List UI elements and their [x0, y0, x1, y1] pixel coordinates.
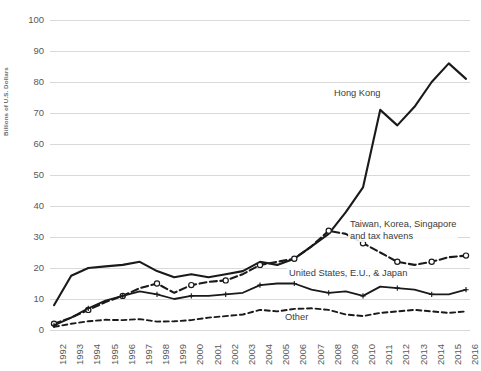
x-axis-tick-label: 2000 — [195, 344, 205, 365]
x-axis-tick-label: 2009 — [350, 344, 360, 365]
series-marker — [429, 292, 434, 297]
x-axis-tick-label: 1993 — [75, 344, 85, 365]
x-axis-tick-label: 1994 — [92, 344, 102, 365]
series-marker — [189, 293, 194, 298]
other-series-label: Other — [283, 312, 310, 324]
series-marker — [154, 281, 159, 286]
taiwan-series-label-line1: Taiwan, Korea, Singapore — [350, 219, 456, 229]
series-marker — [395, 286, 400, 291]
series-marker — [189, 283, 194, 288]
x-axis-tick-label: 2008 — [333, 344, 343, 365]
x-axis-tick-label: 2007 — [316, 344, 326, 365]
series-marker — [395, 259, 400, 264]
x-axis-tick-label: 2014 — [436, 344, 446, 365]
x-axis-tick-label: 2010 — [367, 344, 377, 365]
hong-kong-series-label: Hong Kong — [332, 88, 383, 100]
y-axis-tick-label: 50 — [16, 170, 44, 180]
series-marker — [326, 228, 331, 233]
y-axis-tick-label: 20 — [16, 263, 44, 273]
series-marker — [463, 287, 468, 292]
series-marker — [292, 281, 297, 286]
taiwan-series-label-line2: and tax havens — [350, 231, 413, 241]
y-axis-tick-label: 70 — [16, 108, 44, 118]
y-axis-tick-label: 0 — [16, 325, 44, 335]
x-axis-tick-label: 2015 — [453, 344, 463, 365]
y-axis-tick-label: 30 — [16, 232, 44, 242]
series-marker — [429, 259, 434, 264]
y-axis-title: Billions of U.S. Dollars — [2, 0, 9, 136]
x-axis-tick-label: 2006 — [298, 344, 308, 365]
x-axis-tick-label: 2005 — [281, 344, 291, 365]
x-axis-tick-label: 1995 — [110, 344, 120, 365]
x-axis-tick-label: 2003 — [247, 344, 257, 365]
x-axis-tick-label: 1996 — [127, 344, 137, 365]
x-axis-tick-label: 1999 — [178, 344, 188, 365]
y-axis-tick-labels: 1009080706050403020100 — [16, 0, 44, 371]
series-marker — [223, 292, 228, 297]
y-axis-tick-label: 90 — [16, 46, 44, 56]
gridline — [50, 330, 470, 331]
series-marker — [463, 253, 468, 258]
series-marker — [257, 262, 262, 267]
series-marker — [257, 282, 262, 287]
y-axis-tick-label: 40 — [16, 201, 44, 211]
x-axis-tick-label: 2011 — [384, 345, 394, 365]
series-marker — [326, 290, 331, 295]
x-axis-tick-label: 2012 — [401, 344, 411, 365]
line-chart: Billions of U.S. Dollars 100908070605040… — [0, 0, 481, 371]
x-axis-tick-label: 2016 — [470, 344, 480, 365]
series-marker — [223, 278, 228, 283]
x-axis-tick-label: 1998 — [161, 344, 171, 365]
x-axis-tick-label: 1992 — [58, 344, 68, 365]
x-axis-tick-label: 2002 — [230, 344, 240, 365]
y-axis-tick-label: 10 — [16, 294, 44, 304]
y-axis-tick-label: 80 — [16, 77, 44, 87]
x-axis-tick-label: 2001 — [213, 344, 223, 365]
y-axis-tick-label: 60 — [16, 139, 44, 149]
plot-area — [50, 20, 470, 330]
x-axis-tick-labels: 1992199319941995199619971998199920002001… — [50, 332, 470, 371]
us-eu-japan-series-label: United States, E.U., & Japan — [287, 268, 409, 280]
y-axis-tick-label: 100 — [16, 15, 44, 25]
taiwan-series-label: Taiwan, Korea, Singaporeand tax havens — [348, 219, 458, 242]
x-axis-tick-label: 2004 — [264, 344, 274, 365]
series-line — [54, 308, 466, 327]
x-axis-tick-label: 2013 — [419, 344, 429, 365]
series-marker — [154, 292, 159, 297]
x-axis-tick-label: 1997 — [144, 344, 154, 365]
series-marker — [292, 256, 297, 261]
series-canvas — [50, 20, 470, 330]
